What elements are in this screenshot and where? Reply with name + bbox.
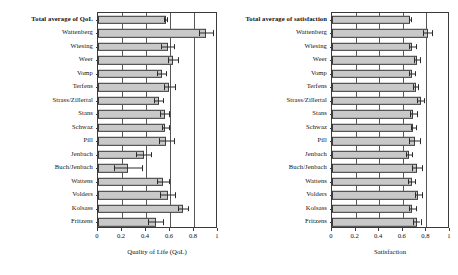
error-bar-cap [412,152,413,158]
error-bar [415,195,422,196]
error-bar-cap [424,98,425,104]
error-bar-cap [136,152,137,158]
category-label: Wattenberg [62,29,93,36]
x-axis-tick [449,228,450,231]
category-label: Wiesing [305,42,327,49]
chart-row [332,108,448,122]
error-bar [162,127,169,128]
error-bar-cap [175,192,176,198]
chart-row [332,148,448,162]
category-axis-labels-qol: Total average of QoLWattenbergWiesingWee… [0,0,93,275]
error-bar-cap [159,138,160,144]
error-bar [178,208,188,209]
chart-row [98,40,216,54]
category-label: Total average of QoL [31,15,93,22]
error-bar-cap [169,111,170,117]
category-label: Stans [312,110,327,117]
category-label: Volders [72,191,93,198]
category-label: Wattens [305,177,327,184]
error-bar [164,87,175,88]
error-bar-cap [412,165,413,171]
x-axis-tick [193,228,194,231]
category-label: Jenbach [305,150,327,157]
chart-row [98,189,216,203]
x-axis-title-qol: Quality of Life (QoL) [127,248,186,255]
chart-row [98,13,216,27]
category-label: Vomp [311,69,327,76]
error-bar-cap [416,44,417,50]
error-bar-cap [162,125,163,131]
bar [98,205,183,213]
error-bar-cap [416,125,417,131]
error-bar-cap [154,98,155,104]
error-bar-cap [409,206,410,212]
category-label: Schwaz [306,123,327,130]
x-axis-tick [355,228,356,231]
error-bar-cap [420,57,421,63]
bar [98,83,169,91]
x-axis-tick-label: 1 [447,232,450,239]
x-axis-tick-label: 0.2 [350,232,358,239]
bar [98,70,162,78]
error-bar [413,222,420,223]
bar [332,43,412,51]
chart-row [98,202,216,216]
category-label: Wattenberg [296,29,327,36]
error-bar [408,181,415,182]
bar [98,124,165,132]
error-bar-cap [169,179,170,185]
category-label: Pill [83,137,93,144]
bar [98,218,156,226]
error-bar-cap [114,165,115,171]
error-bar-cap [163,219,164,225]
bar [98,110,165,118]
x-axis-tick-label: 0.8 [189,232,197,239]
x-axis-tick-label: 0.2 [117,232,125,239]
x-axis-tick-label: 0.4 [141,232,149,239]
chart-row [98,108,216,122]
chart-row [332,67,448,81]
chart-row [332,54,448,68]
chart-row [332,175,448,189]
category-label: Schwaz [72,123,93,130]
category-label: Terfens [73,83,93,90]
bar [332,151,409,159]
chart-row [332,135,448,149]
chart-row [332,94,448,108]
category-label: Buch/Jenbach [289,164,327,171]
error-bar-cap [160,192,161,198]
bar [332,137,415,145]
category-label: Wiesing [71,42,93,49]
error-bar-cap [417,111,418,117]
error-bar-cap [168,57,169,63]
category-label: Kolsass [72,204,93,211]
error-bar-cap [411,17,412,23]
x-axis-tick-label: 0 [329,232,332,239]
bar [332,218,417,226]
x-axis-tick-label: 1 [215,232,218,239]
x-axis-tick [217,228,218,231]
bar [332,56,417,64]
error-bar-cap [409,17,410,23]
error-bar-cap [410,111,411,117]
category-label: Wattens [71,177,93,184]
bar [332,191,418,199]
error-bar-cap [167,17,168,23]
chart-row [332,13,448,27]
error-bar [168,60,179,61]
bar [332,110,413,118]
category-label: Weer [313,56,327,63]
plot-area-satisfaction [331,12,449,228]
error-bar-cap [421,219,422,225]
error-bar [423,33,432,34]
category-label: Volders [306,191,327,198]
chart-panel-qol: Total average of QoLWattenbergWiesingWee… [0,0,229,275]
category-axis-labels-satisfaction: Total average of satisfactionWattenbergW… [229,0,327,275]
chart-row [98,94,216,108]
bar [98,29,206,37]
bar [98,137,166,145]
error-bar-cap [175,84,176,90]
chart-row [332,40,448,54]
error-bar-cap [151,152,152,158]
category-label: Jenbach [71,150,93,157]
